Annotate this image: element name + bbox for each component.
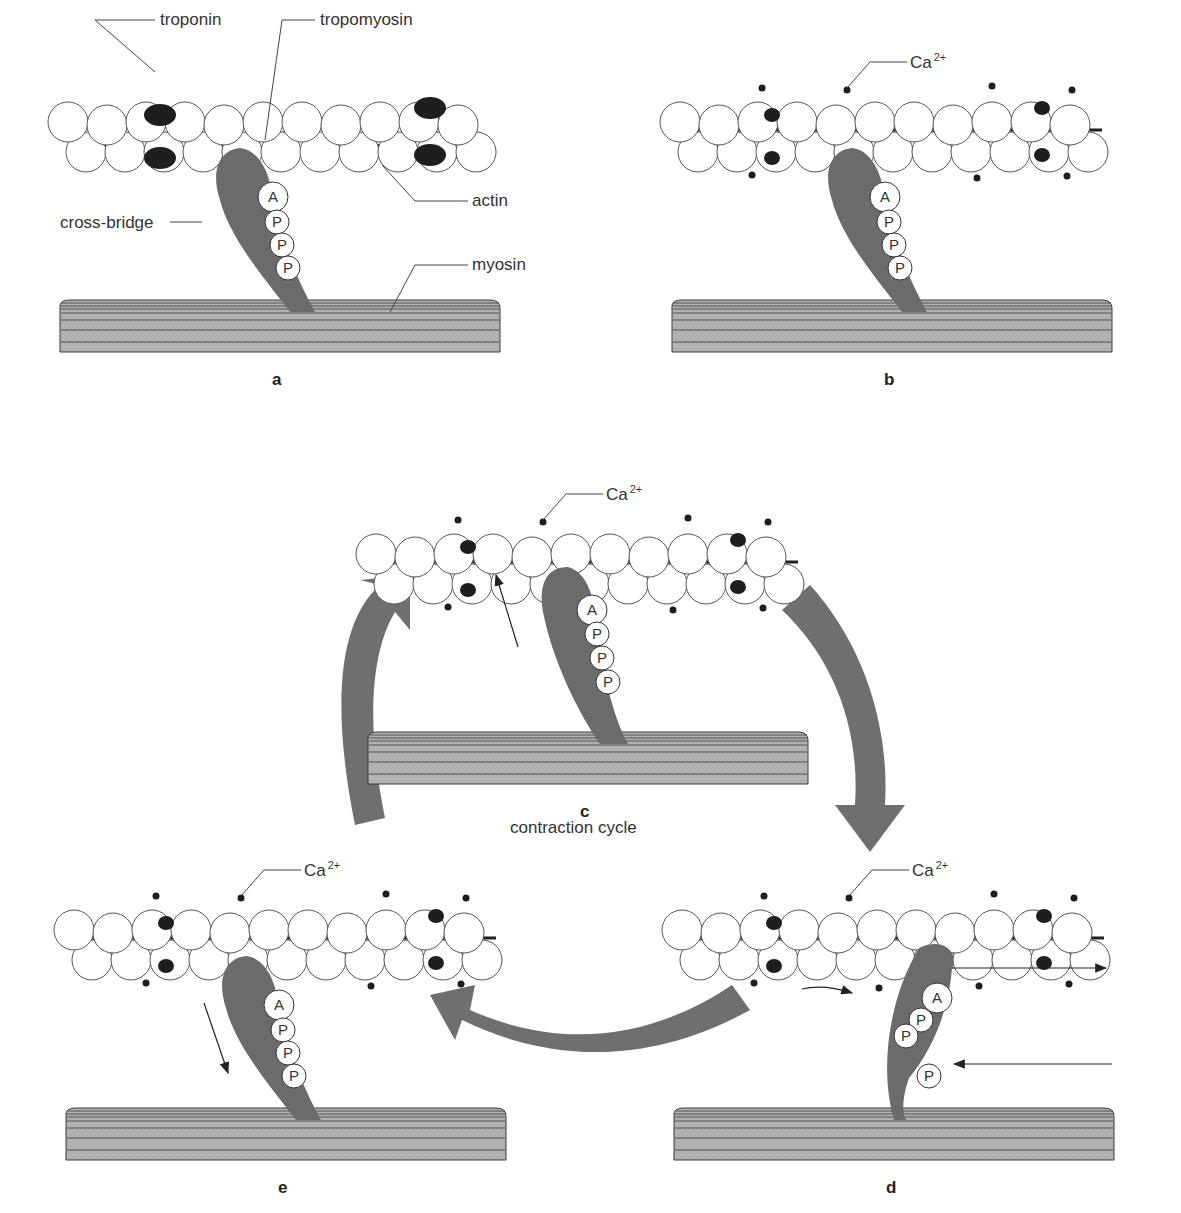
actin-monomer	[395, 537, 435, 577]
calcium-ion	[455, 517, 462, 524]
actin-monomer	[1052, 913, 1092, 953]
calcium-ion	[383, 891, 390, 898]
actin-monomer	[243, 102, 283, 142]
actin-monomer	[662, 910, 702, 950]
calcium-label: Ca2+	[912, 859, 948, 880]
troponin-complex	[766, 959, 782, 973]
troponin-complex	[1036, 909, 1052, 923]
panel-b: Ca2+APPPb	[660, 51, 1112, 389]
actin-monomer	[779, 910, 819, 950]
actin-filament	[54, 909, 502, 980]
calcium-ion	[876, 985, 883, 992]
contraction-cycle-figure: contraction cycle APPPtroponintropomyosi…	[0, 0, 1181, 1213]
actin-monomer	[855, 102, 895, 142]
phosphate-unit: P	[877, 210, 901, 234]
actin-monomer	[660, 102, 700, 142]
actin-monomer	[896, 910, 936, 950]
cross-bridge: APPP	[222, 956, 321, 1120]
actin-filament	[48, 97, 496, 172]
actin-filament	[662, 909, 1110, 980]
myosin-filament	[66, 1108, 506, 1160]
myosin-label: myosin	[472, 255, 526, 274]
phosphate-unit: P	[276, 1041, 300, 1065]
adenosine-unit: A	[870, 182, 900, 212]
atp-letter: A	[268, 188, 278, 205]
myosin-filament	[672, 300, 1112, 352]
panel-letter-b: b	[884, 370, 894, 389]
panel-a: APPPtroponintropomyosinactincross-bridge…	[48, 10, 526, 389]
actin-label: actin	[472, 191, 508, 210]
actin-filament	[660, 101, 1108, 172]
phosphate-unit: P	[276, 256, 300, 280]
atp-letter: P	[901, 1027, 911, 1044]
contraction-cycle-label: contraction cycle	[510, 818, 637, 837]
calcium-leader	[543, 494, 603, 520]
atp-letter: P	[289, 1067, 299, 1084]
troponin-complex	[766, 916, 782, 930]
troponin-complex	[144, 147, 176, 169]
actin-monomer	[972, 102, 1012, 142]
atp-letter: P	[277, 236, 287, 253]
panel-e: Ca2+APPPe	[54, 859, 506, 1197]
calcium-ion	[765, 519, 772, 526]
troponin-complex	[730, 580, 746, 594]
released-phosphate: P	[917, 1064, 941, 1088]
cycle-arrows	[341, 575, 905, 1052]
troponin-complex	[1034, 148, 1050, 162]
actin-monomer	[473, 534, 513, 574]
actin-monomer	[87, 105, 127, 145]
arrow-d-to-e-icon	[430, 985, 750, 1052]
actin-monomer	[974, 910, 1014, 950]
atp-letter: P	[283, 259, 293, 276]
power-stroke-arrow-icon	[802, 987, 852, 993]
calcium-ion	[463, 895, 470, 902]
actin-monomer	[668, 534, 708, 574]
actin-monomer	[360, 102, 400, 142]
atp-letter: P	[924, 1067, 934, 1084]
calcium-ion	[974, 175, 981, 182]
adenosine-unit: A	[264, 990, 294, 1020]
phosphate-unit: P	[265, 210, 289, 234]
troponin-complex	[158, 916, 174, 930]
calcium-leader	[849, 870, 909, 896]
calcium-ion	[760, 605, 767, 612]
calcium-ion	[1066, 981, 1073, 988]
troponin-complex	[1034, 101, 1050, 115]
actin-monomer	[288, 910, 328, 950]
troponin-complex	[158, 959, 174, 973]
actin-monomer	[857, 910, 897, 950]
actin-monomer	[816, 105, 856, 145]
troponin-complex	[144, 104, 176, 126]
actin-monomer	[327, 913, 367, 953]
arrow-e-to-c-icon	[341, 575, 410, 825]
actin-monomer	[933, 105, 973, 145]
atp-letter: P	[916, 1011, 926, 1028]
calcium-ion	[670, 607, 677, 614]
troponin-complex	[460, 540, 476, 554]
actin-monomer	[54, 910, 94, 950]
calcium-ion	[445, 604, 452, 611]
phosphate-unit: P	[590, 646, 614, 670]
troponin-complex	[764, 151, 780, 165]
adenosine-unit: A	[258, 182, 288, 212]
phosphate-unit: P	[282, 1064, 306, 1088]
atp-letter: P	[592, 625, 602, 642]
calcium-ion	[751, 980, 758, 987]
actin-monomer	[590, 534, 630, 574]
head-release-arrow-icon	[204, 1003, 228, 1073]
calcium-leader	[847, 62, 907, 88]
phosphate-unit: P	[271, 1018, 295, 1042]
actin-monomer	[204, 105, 244, 145]
myosin-filament	[60, 300, 500, 352]
phosphate-unit: P	[596, 670, 620, 694]
actin-monomer	[777, 102, 817, 142]
phosphate-unit: P	[894, 1024, 918, 1048]
calcium-ion	[991, 891, 998, 898]
calcium-ion	[761, 893, 768, 900]
tropomyosin-label: tropomyosin	[320, 10, 413, 29]
panel-letter-a: a	[272, 370, 282, 389]
actin-monomer	[699, 105, 739, 145]
troponin-complex	[414, 97, 446, 119]
panel-d: Ca2+APPPd	[662, 859, 1114, 1197]
arrow-c-to-d-icon	[782, 585, 905, 852]
